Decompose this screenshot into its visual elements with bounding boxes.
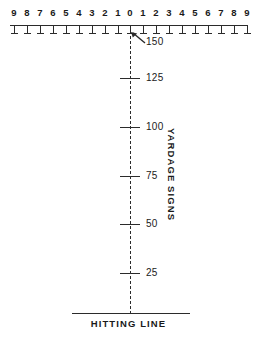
yardage-tick-label: 75 [146,170,158,181]
lateral-scale-tick [14,25,15,33]
lateral-scale-tick-foot [218,33,225,34]
lateral-scale-tick [182,25,183,33]
lateral-scale-tick [66,25,67,33]
lateral-scale-tick-foot [231,33,238,34]
lateral-scale-tick [156,25,157,33]
yardage-tick [120,127,140,128]
lateral-scale-axis [10,25,248,26]
lateral-scale-tick [118,25,119,33]
yardage-tick [120,78,140,79]
lateral-scale-tick-foot [115,33,122,34]
lateral-scale-tick-foot [11,33,18,34]
lateral-scale-tick-foot [244,33,251,34]
lateral-scale-tick-foot [166,33,173,34]
lateral-scale-tick [27,25,28,33]
lateral-scale-tick [79,25,80,33]
lateral-scale-tick [92,25,93,33]
lateral-scale-tick [234,25,235,33]
lateral-scale-tick [221,25,222,33]
lateral-scale-tick [247,25,248,33]
yardage-tick [120,176,140,177]
lateral-scale-tick-foot [89,33,96,34]
lateral-scale-tick-foot [192,33,199,34]
lateral-scale-tick-foot [50,33,57,34]
lateral-scale-tick [208,25,209,33]
yardage-tick-label: 100 [146,121,164,132]
lateral-scale-tick-foot [76,33,83,34]
lateral-scale-tick-foot [63,33,70,34]
lateral-scale-tick-foot [102,33,109,34]
lateral-scale-tick [169,25,170,33]
yardage-signs-label: YARDAGE SIGNS [166,128,176,221]
lateral-scale-tick-foot [24,33,31,34]
lateral-scale-tick [105,25,106,33]
yardage-tick-label: 125 [146,72,164,83]
arrow-up-left-icon [131,32,147,46]
yardage-tick [120,224,140,225]
yardage-tick-label: 50 [146,218,158,229]
lateral-scale-tick-foot [153,33,160,34]
lateral-scale-tick [40,25,41,33]
hitting-line-rule [72,313,190,314]
yardage-tick-label: 25 [146,267,158,278]
caption-sliver [0,337,257,344]
driving-range-diagram: 9876543210123456789 150 125100755025 YAR… [0,0,257,344]
yardage-tick [120,273,140,274]
lateral-scale-tick [195,25,196,33]
lateral-scale-number: 9 [239,8,255,18]
hitting-line-label: HITTING LINE [0,318,257,329]
lateral-scale-tick-foot [37,33,44,34]
yardage-callout-150: 150 [146,36,164,47]
centerline-dashed [130,26,131,314]
lateral-scale-tick [53,25,54,33]
lateral-scale-tick-foot [205,33,212,34]
lateral-scale-tick-foot [179,33,186,34]
